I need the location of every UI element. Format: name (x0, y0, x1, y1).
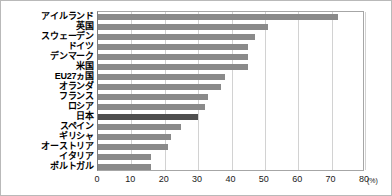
bar-row (98, 82, 365, 92)
bar-chart: アイルランド英国スウェーデンドイツデンマーク米国EU27ヵ国オランダフランスロシ… (0, 0, 392, 196)
value-tick-label: 60 (292, 174, 302, 185)
bar (98, 64, 248, 70)
category-label: イタリア (0, 151, 94, 161)
category-label: ポルトガル (0, 161, 94, 171)
category-label: オーストリア (0, 141, 94, 151)
bar-row (98, 42, 365, 52)
category-label: 英国 (0, 21, 94, 31)
bar (98, 134, 171, 140)
category-label: EU27ヵ国 (0, 71, 94, 81)
category-label: ギリシャ (0, 131, 94, 141)
bar (98, 54, 248, 60)
bar (98, 14, 338, 20)
bar (98, 164, 151, 170)
value-tick-label: 20 (159, 174, 169, 185)
bar-row (98, 32, 365, 42)
category-label: デンマーク (0, 51, 94, 61)
category-label: スペイン (0, 121, 94, 131)
bar-row (98, 22, 365, 32)
bar-row (98, 132, 365, 142)
bar (98, 144, 168, 150)
bar-row (98, 162, 365, 172)
value-axis-unit-label: (%) (367, 176, 378, 185)
bar-row (98, 152, 365, 162)
category-label: オランダ (0, 81, 94, 91)
bar (98, 94, 208, 100)
bar-row (98, 12, 365, 22)
category-label: ロシア (0, 101, 94, 111)
category-label: フランス (0, 91, 94, 101)
bar-row (98, 102, 365, 112)
bar-row (98, 142, 365, 152)
value-tick-label: 40 (225, 174, 235, 185)
category-label: ドイツ (0, 41, 94, 51)
bar-row (98, 62, 365, 72)
value-tick-label: 70 (326, 174, 336, 185)
value-tick-label: 0 (94, 174, 99, 185)
value-axis: 01020304050607080 (97, 172, 364, 188)
bar-row (98, 122, 365, 132)
bar (98, 74, 225, 80)
category-label: スウェーデン (0, 31, 94, 41)
bar (98, 24, 268, 30)
bar (98, 114, 198, 120)
bar (98, 104, 205, 110)
bar-row (98, 72, 365, 82)
plot-area (97, 11, 364, 171)
bar-series (98, 12, 363, 170)
bar-row (98, 112, 365, 122)
bar (98, 34, 255, 40)
category-label: アイルランド (0, 11, 94, 21)
value-tick-label: 50 (259, 174, 269, 185)
bar (98, 84, 221, 90)
gridline-80 (365, 12, 366, 170)
category-axis-labels: アイルランド英国スウェーデンドイツデンマーク米国EU27ヵ国オランダフランスロシ… (0, 11, 94, 171)
bar-row (98, 52, 365, 62)
bar (98, 124, 181, 130)
bar-row (98, 92, 365, 102)
bar (98, 154, 151, 160)
value-tick-label: 30 (192, 174, 202, 185)
category-label: 日本 (0, 111, 94, 121)
category-label: 米国 (0, 61, 94, 71)
value-tick-label: 10 (125, 174, 135, 185)
bar (98, 44, 248, 50)
